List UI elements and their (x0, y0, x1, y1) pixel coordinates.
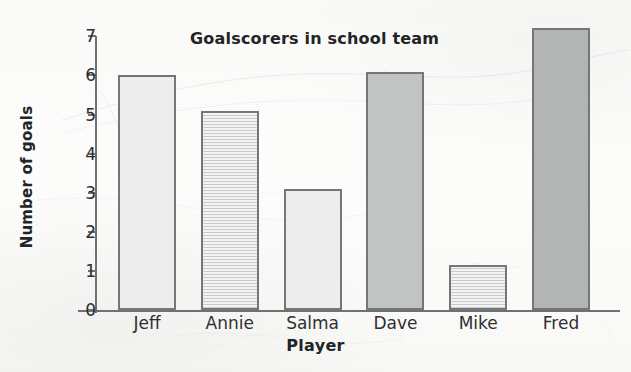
bar-dave (366, 72, 424, 311)
y-tick-label: 3 (72, 184, 96, 201)
x-label-annie: Annie (190, 314, 270, 333)
y-tick-label: 0 (72, 302, 96, 319)
y-tick-label: 5 (72, 106, 96, 123)
y-tick-label: 1 (72, 262, 96, 279)
bar-salma (284, 189, 342, 310)
x-axis-title: Player (0, 336, 631, 355)
y-tick-label: 4 (72, 145, 96, 162)
x-label-jeff: Jeff (107, 314, 187, 333)
x-label-dave: Dave (355, 314, 435, 333)
y-tick-label-row: 1 (54, 271, 96, 273)
chart-title: Goalscorers in school team (190, 29, 439, 48)
x-label-fred: Fred (521, 314, 601, 333)
y-tick-label: 2 (72, 223, 96, 240)
y-axis-title: Number of goals (18, 82, 36, 272)
x-label-mike: Mike (438, 314, 518, 333)
bar-jeff (118, 75, 176, 310)
y-tick-label-row: 0 (54, 310, 96, 312)
y-tick-label-row: 5 (54, 115, 96, 117)
bar-annie (201, 111, 259, 310)
x-axis-line (78, 310, 620, 312)
y-tick-label: 7 (72, 28, 96, 45)
y-tick-label-row: 3 (54, 193, 96, 195)
chart-plot-area: Goalscorers in school team 01234567 Jeff… (0, 0, 631, 372)
y-tick-label-row: 6 (54, 75, 96, 77)
bar-fred (532, 28, 590, 310)
y-tick-label-row: 4 (54, 154, 96, 156)
chart-image: Goalscorers in school team 01234567 Jeff… (0, 0, 631, 372)
y-tick-label-row: 7 (54, 36, 96, 38)
x-label-salma: Salma (273, 314, 353, 333)
y-tick-label: 6 (72, 67, 96, 84)
y-tick-label-row: 2 (54, 232, 96, 234)
bar-mike (449, 265, 507, 310)
